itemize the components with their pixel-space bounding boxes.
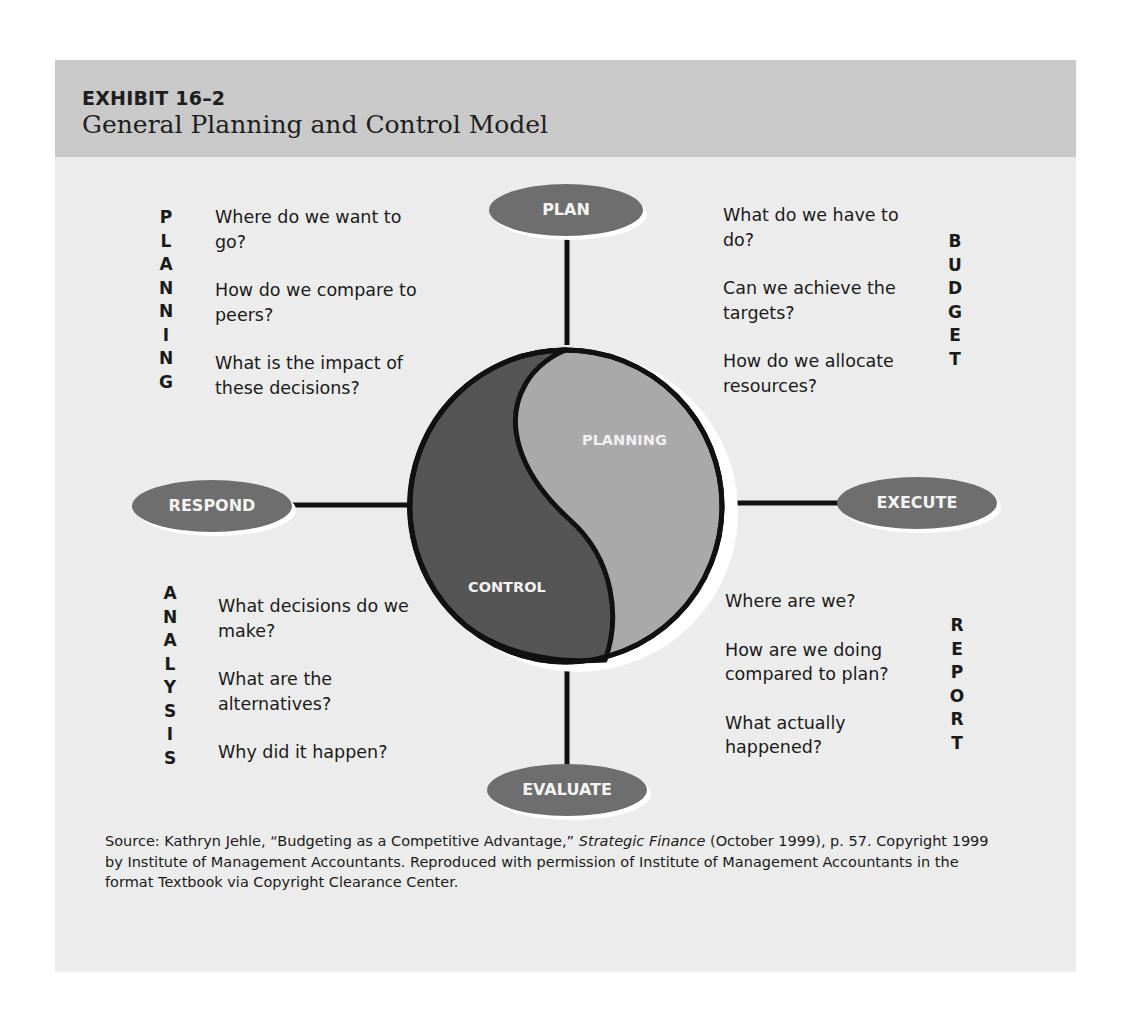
vertical-word-analysis: A N A L Y S I S (158, 582, 182, 770)
questions-planning: Where do we want to go? How do we compar… (215, 205, 430, 400)
question: How do we allocate resources? (723, 349, 923, 398)
questions-analysis: What decisions do we make? What are the … (218, 594, 418, 765)
questions-budget: What do we have to do? Can we achieve th… (723, 203, 923, 398)
control-label: CONTROL (468, 579, 546, 595)
question: What actually happened? (725, 711, 895, 760)
vertical-word-budget: B U D G E T (943, 230, 967, 371)
node-execute-label: EXECUTE (837, 493, 997, 512)
planning-label: PLANNING (582, 432, 667, 448)
node-respond-label: RESPOND (132, 496, 292, 515)
node-evaluate-label: EVALUATE (487, 780, 647, 799)
question: Why did it happen? (218, 740, 418, 765)
question: Can we achieve the targets? (723, 276, 923, 325)
source-citation: Source: Kathryn Jehle, “Budgeting as a C… (105, 831, 1005, 893)
vertical-word-report: R E P O R T (945, 614, 969, 755)
question: What decisions do we make? (218, 594, 418, 643)
node-plan-label: PLAN (496, 200, 636, 219)
question: What are the alternatives? (218, 667, 418, 716)
source-label: Source: (105, 833, 160, 849)
source-text-1: Kathryn Jehle, “Budgeting as a Competiti… (160, 833, 579, 849)
questions-report: Where are we? How are we doing compared … (725, 589, 895, 760)
vertical-word-planning: P L A N N I N G (154, 206, 178, 394)
source-publication: Strategic Finance (579, 833, 706, 849)
question: Where do we want to go? (215, 205, 430, 254)
question: What do we have to do? (723, 203, 923, 252)
question: Where are we? (725, 589, 895, 614)
question: What is the impact of these decisions? (215, 351, 430, 400)
question: How are we doing compared to plan? (725, 638, 895, 687)
question: How do we compare to peers? (215, 278, 430, 327)
